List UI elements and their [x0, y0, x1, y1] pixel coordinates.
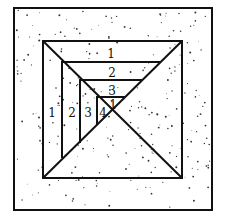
nested-squares-diagram: 1 2 3 1 1 2 3 4 [0, 0, 225, 223]
label-left-4: 4 [99, 106, 107, 120]
label-top-3: 3 [108, 84, 116, 98]
label-top-4: 1 [109, 98, 117, 112]
left-labels: 1 2 3 4 [48, 106, 107, 120]
label-left-3: 3 [84, 106, 92, 120]
label-left-1: 1 [48, 106, 56, 120]
label-top-1: 1 [107, 47, 115, 61]
label-left-2: 2 [68, 106, 76, 120]
top-labels: 1 2 3 1 [107, 47, 117, 112]
label-top-2: 2 [108, 66, 116, 80]
